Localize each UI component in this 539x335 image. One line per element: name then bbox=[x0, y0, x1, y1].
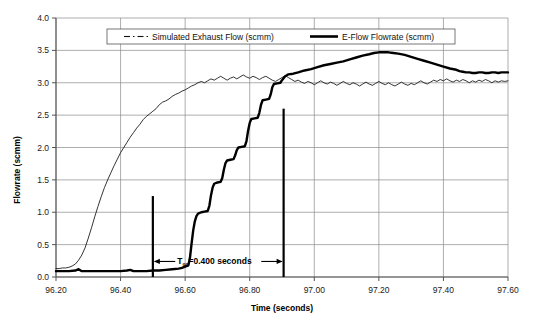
flowrate-vs-time-chart: 0.00.51.01.52.02.53.03.54.0 96.2096.4096… bbox=[0, 0, 539, 335]
x-tick-label: 97.60 bbox=[497, 285, 519, 295]
chart-container: 0.00.51.01.52.02.53.03.54.0 96.2096.4096… bbox=[0, 0, 539, 335]
y-tick-label: 3.0 bbox=[37, 78, 49, 88]
legend: Simulated Exhaust Flow (scmm) E-Flow Flo… bbox=[107, 29, 455, 44]
y-tick-label: 0.0 bbox=[37, 272, 49, 282]
y-tick-label: 1.0 bbox=[37, 207, 49, 217]
x-axis-title: Time (seconds) bbox=[251, 303, 313, 313]
y-tick-label: 2.5 bbox=[37, 110, 49, 120]
y-tick-label: 2.0 bbox=[37, 143, 49, 153]
x-tick-label: 96.40 bbox=[110, 285, 132, 295]
x-tick-label: 96.80 bbox=[239, 285, 261, 295]
legend-label-simulated-exhaust-flow: Simulated Exhaust Flow (scmm) bbox=[152, 32, 274, 42]
y-tick-label: 1.5 bbox=[37, 175, 49, 185]
x-tick-label: 96.20 bbox=[45, 285, 67, 295]
x-tick-label: 96.60 bbox=[175, 285, 197, 295]
x-tick-label: 97.00 bbox=[304, 285, 326, 295]
y-axis-title: Flowrate (scmm) bbox=[12, 136, 22, 204]
y-tick-label: 4.0 bbox=[37, 13, 49, 23]
t90-annotation-text: T90=0.400 seconds bbox=[177, 256, 252, 267]
t90-value: =0.400 seconds bbox=[189, 256, 252, 266]
y-tick-label: 3.5 bbox=[37, 45, 49, 55]
y-tick-label: 0.5 bbox=[37, 240, 49, 250]
x-tick-label: 97.20 bbox=[368, 285, 390, 295]
legend-label-eflow-flowrate: E-Flow Flowrate (scmm) bbox=[342, 32, 434, 42]
x-tick-label: 97.40 bbox=[433, 285, 455, 295]
